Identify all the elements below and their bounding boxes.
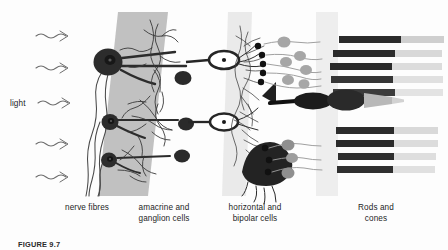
receptor-nucleus bbox=[294, 51, 306, 61]
pedicle bbox=[260, 61, 266, 67]
retina-figure: light nerve fibres amacrine and ganglion… bbox=[0, 0, 448, 250]
pedicle bbox=[266, 157, 272, 163]
receptor-nucleus bbox=[299, 79, 310, 89]
receptor-nucleus bbox=[278, 37, 291, 48]
label-horizontal-bipolar-cells: horizontal and bipolar cells bbox=[210, 203, 300, 224]
light-arrow-5 bbox=[36, 172, 68, 182]
rod bbox=[333, 50, 442, 57]
rod bbox=[331, 76, 443, 83]
rod bbox=[338, 153, 436, 160]
pedicle bbox=[262, 145, 268, 151]
rod bbox=[330, 63, 442, 70]
light-label: light bbox=[10, 99, 40, 110]
amacrine-cell-2 bbox=[178, 118, 194, 131]
label-rods-cones: Rods and cones bbox=[340, 203, 412, 224]
cone-inner-segment bbox=[327, 90, 365, 111]
light-arrows-group bbox=[36, 31, 70, 182]
pedicle bbox=[259, 52, 265, 58]
cone-soma bbox=[294, 93, 332, 110]
rod bbox=[339, 36, 444, 43]
receptor-nucleus bbox=[282, 75, 294, 85]
rods-lower-group bbox=[336, 127, 438, 173]
pedicle bbox=[258, 79, 264, 85]
receptor-nucleus bbox=[286, 153, 298, 163]
receptor-nucleus bbox=[300, 65, 312, 75]
rods-upper-group bbox=[330, 36, 444, 96]
label-amacrine-ganglion-cells: amacrine and ganglion cells bbox=[122, 203, 206, 224]
receptor-nucleus bbox=[282, 140, 295, 151]
amacrine-cell-3 bbox=[174, 150, 190, 163]
light-arrow-3 bbox=[38, 98, 70, 108]
amacrine-cell-1 bbox=[175, 71, 192, 85]
rod bbox=[337, 166, 435, 173]
label-nerve-fibres: nerve fibres bbox=[50, 203, 124, 214]
pedicle bbox=[265, 169, 271, 175]
rod bbox=[336, 140, 438, 147]
figure-caption: FIGURE 9.7 bbox=[18, 240, 60, 249]
light-arrow-1 bbox=[36, 31, 68, 41]
rod bbox=[336, 127, 438, 134]
cone-axon bbox=[270, 101, 296, 103]
nerve-fibre-3 bbox=[89, 122, 100, 196]
receptor-nucleus bbox=[280, 57, 292, 67]
pedicle bbox=[255, 43, 261, 49]
light-arrow-4 bbox=[36, 139, 68, 149]
cone-tip bbox=[392, 97, 404, 104]
light-arrow-2 bbox=[36, 63, 68, 73]
pedicle bbox=[260, 70, 266, 76]
receptor-nucleus bbox=[282, 168, 295, 179]
